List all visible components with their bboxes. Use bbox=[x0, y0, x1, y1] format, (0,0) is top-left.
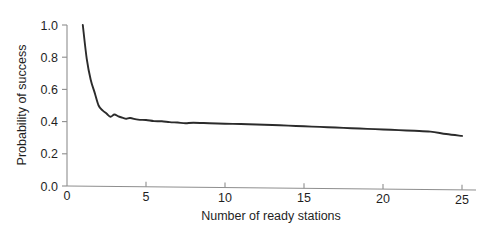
probability-of-success-line-chart: 0.00.20.40.60.81.0 0510152025 Number of … bbox=[0, 0, 494, 232]
x-tick-label: 25 bbox=[455, 193, 469, 207]
chart-figure: 0.00.20.40.60.81.0 0510152025 Number of … bbox=[0, 0, 494, 232]
x-tick-label: 15 bbox=[297, 191, 311, 205]
y-tick-label: 0.4 bbox=[41, 115, 58, 129]
x-axis-title: Number of ready stations bbox=[201, 209, 341, 223]
y-tick-label: 0.6 bbox=[41, 83, 58, 97]
y-tick-label: 0.2 bbox=[41, 147, 58, 161]
x-tick-label: 10 bbox=[218, 191, 232, 205]
chart-background bbox=[0, 0, 494, 232]
y-tick-label: 1.0 bbox=[41, 19, 58, 33]
y-axis-title: Probability of success bbox=[15, 45, 29, 166]
x-tick-label: 0 bbox=[64, 189, 71, 203]
x-tick-label: 5 bbox=[143, 190, 150, 204]
x-tick-label: 20 bbox=[376, 192, 390, 206]
y-tick-label: 0.0 bbox=[41, 180, 58, 194]
y-tick-label: 0.8 bbox=[41, 51, 58, 65]
